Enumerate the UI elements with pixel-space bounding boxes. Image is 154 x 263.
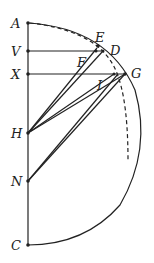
label-X: X [10,67,21,82]
label-N: N [10,174,23,189]
line-NG [28,74,125,181]
label-I: I [96,78,103,93]
label-H: H [10,126,23,141]
label-D: D [109,43,121,58]
label-C: C [11,238,21,253]
label-F: F [76,55,87,70]
line-HD [28,51,103,133]
geometry-diagram: A V X H N C E D F G I [0,0,154,263]
label-A: A [10,16,20,31]
line-HF [28,48,97,133]
line-NI [28,74,118,181]
label-V: V [11,44,22,59]
label-G: G [131,66,141,81]
label-E: E [94,30,105,45]
